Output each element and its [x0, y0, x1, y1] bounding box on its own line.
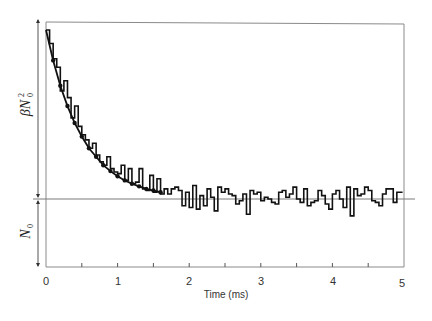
noise-trace	[46, 30, 403, 216]
x-axis-ticks	[82, 263, 368, 267]
fit-marker	[72, 121, 76, 125]
fit-marker	[151, 188, 155, 192]
fit-marker	[108, 169, 112, 173]
plot-frame	[33, 22, 415, 267]
fit-marker	[144, 187, 148, 191]
chart: 0 1 2 3 4 5 Time (ms) βN 2 0 N 0	[0, 0, 432, 321]
fit-marker	[130, 182, 134, 186]
fit-marker	[51, 58, 55, 62]
beta-n0-main: βN	[18, 99, 33, 117]
amplitude-bracket	[36, 19, 40, 267]
x-axis-tick-labels: 0 1 2 3 4 5	[43, 275, 405, 289]
arrow-down-icon	[36, 194, 40, 198]
n0-label: N 0	[18, 224, 35, 240]
plot-border	[46, 22, 404, 267]
fit-marker	[58, 84, 62, 88]
x-axis-title: Time (ms)	[204, 289, 249, 300]
n0-sub: 0	[26, 224, 35, 228]
fit-marker	[65, 104, 69, 108]
fit-marker	[158, 190, 162, 194]
x-tick-label-0: 0	[43, 275, 49, 287]
fit-marker	[80, 134, 84, 138]
x-tick-label-1: 1	[115, 275, 121, 287]
beta-n0-sub: 0	[26, 93, 35, 97]
data-series	[46, 30, 403, 216]
beta-n0-sup: 2	[17, 93, 26, 97]
x-tick-label-2: 2	[186, 275, 192, 287]
arrow-down-icon	[36, 263, 40, 267]
fit-marker	[137, 184, 141, 188]
fit-marker	[87, 146, 91, 150]
svg-text:βN: βN	[18, 99, 33, 117]
arrow-up-icon	[36, 19, 40, 23]
x-tick-label-4: 4	[330, 275, 336, 287]
fit-marker	[101, 163, 105, 167]
beta-n0-squared-label: βN 2 0	[17, 93, 35, 117]
x-tick-label-3: 3	[258, 275, 264, 287]
x-tick-label-5: 5	[399, 277, 405, 289]
fit-marker	[94, 155, 98, 159]
fit-marker	[115, 174, 119, 178]
arrow-up-icon	[36, 200, 40, 204]
n0-main: N	[18, 229, 33, 240]
fit-marker	[123, 178, 127, 182]
